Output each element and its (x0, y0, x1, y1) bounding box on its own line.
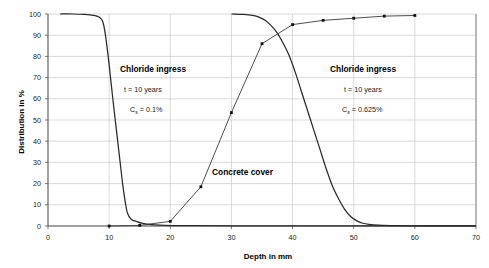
x-tick-label: 10 (105, 233, 113, 242)
data-point-marker (108, 225, 111, 228)
chart-background (0, 0, 489, 268)
y-tick-label: 60 (33, 94, 41, 103)
y-tick-label: 0 (37, 222, 41, 231)
data-point-marker (291, 23, 294, 26)
data-point-marker (383, 15, 386, 18)
data-point-marker (199, 185, 202, 188)
data-point-marker (138, 224, 141, 227)
y-tick-label: 80 (33, 52, 41, 61)
y-axis-title: Distribution in % (17, 90, 26, 154)
concrete-cover-label: Concrete cover (212, 167, 274, 177)
chloride-ingress-chart: 0102030405060708090100010203040506070 Di… (0, 0, 489, 268)
data-point-marker (230, 111, 233, 114)
annotation-left-cs-value: = 0.1% (138, 105, 163, 114)
x-tick-label: 60 (411, 233, 419, 242)
annotation-left-title: Chloride ingress (120, 64, 186, 74)
x-tick-label: 50 (350, 233, 358, 242)
y-tick-label: 10 (33, 200, 41, 209)
annotation-right-title: Chloride ingress (330, 64, 396, 74)
y-tick-label: 90 (33, 31, 41, 40)
x-tick-label: 30 (227, 233, 235, 242)
annotation-left-time: t = 10 years (124, 85, 162, 94)
x-tick-label: 20 (166, 233, 174, 242)
annotation-right-time: t = 10 years (344, 85, 382, 94)
x-tick-label: 70 (472, 233, 480, 242)
chart-container: 0102030405060708090100010203040506070 Di… (0, 0, 489, 268)
x-tick-label: 0 (46, 233, 50, 242)
x-tick-label: 40 (289, 233, 297, 242)
annotation-left-cs: Cs = 0.1% (130, 105, 163, 115)
data-point-marker (322, 19, 325, 22)
y-tick-label: 100 (29, 10, 41, 19)
x-axis-title: Depth in mm (244, 252, 292, 261)
annotation-right-cs-value: = 0.625% (350, 105, 383, 114)
y-tick-label: 50 (33, 116, 41, 125)
y-tick-label: 30 (33, 158, 41, 167)
data-point-marker (261, 42, 264, 45)
y-tick-label: 70 (33, 73, 41, 82)
y-tick-label: 20 (33, 179, 41, 188)
data-point-marker (352, 17, 355, 20)
data-point-marker (169, 220, 172, 223)
data-point-marker (413, 14, 416, 17)
y-tick-label: 40 (33, 137, 41, 146)
